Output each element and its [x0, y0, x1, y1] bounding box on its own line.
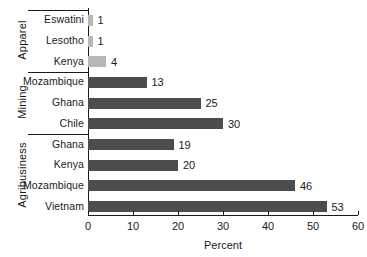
x-tick-mark	[178, 211, 179, 215]
x-tick-label: 40	[248, 220, 288, 232]
bar	[88, 180, 295, 191]
bar-value-label: 53	[332, 201, 344, 213]
bar-value-label: 19	[179, 139, 191, 151]
bar-value-label: 46	[300, 180, 312, 192]
x-tick-label: 20	[158, 220, 198, 232]
series-label: Eswatini	[0, 13, 84, 25]
bar	[88, 160, 178, 171]
bar	[88, 98, 201, 109]
bar-value-label: 25	[206, 97, 218, 109]
bar-value-label: 13	[152, 76, 164, 88]
series-label: Kenya	[0, 158, 84, 170]
x-tick-mark	[133, 211, 134, 215]
series-label: Lesotho	[0, 34, 84, 46]
bar	[88, 36, 93, 47]
series-label: Ghana	[0, 138, 84, 150]
x-tick-label: 60	[338, 220, 367, 232]
x-axis-line	[88, 215, 358, 216]
x-tick-label: 10	[113, 220, 153, 232]
bar-value-label: 1	[98, 14, 104, 26]
bar	[88, 118, 223, 129]
x-axis-title: Percent	[88, 239, 358, 251]
bar	[88, 201, 327, 212]
x-tick-mark	[223, 211, 224, 215]
bar-value-label: 4	[111, 56, 117, 68]
x-tick-label: 0	[68, 220, 108, 232]
group-separator	[28, 10, 88, 11]
x-tick-label: 50	[293, 220, 333, 232]
bar-row: 30	[88, 118, 358, 129]
plot-area: 11413253019204653	[88, 0, 358, 215]
bar	[88, 139, 174, 150]
bar-row: 1	[88, 15, 358, 26]
bar-row: 4	[88, 56, 358, 67]
x-tick-mark	[88, 211, 89, 215]
bar-row: 20	[88, 160, 358, 171]
x-tick-mark	[313, 211, 314, 215]
group-separator	[28, 134, 88, 135]
bar-row: 13	[88, 77, 358, 88]
series-label: Chile	[0, 117, 84, 129]
bar-row: 25	[88, 98, 358, 109]
bar	[88, 15, 93, 26]
bar-row: 1	[88, 36, 358, 47]
bar	[88, 56, 106, 67]
series-label: Mozambique	[0, 179, 84, 191]
group-separator	[28, 72, 88, 73]
bar-value-label: 1	[98, 35, 104, 47]
bar-value-label: 20	[183, 159, 195, 171]
series-label: Ghana	[0, 96, 84, 108]
bar-value-label: 30	[228, 118, 240, 130]
bar-row: 19	[88, 139, 358, 150]
series-label: Kenya	[0, 55, 84, 67]
x-tick-mark	[268, 211, 269, 215]
x-tick-label: 30	[203, 220, 243, 232]
series-label: Mozambique	[0, 75, 84, 87]
bar-chart: ApparelMiningAgribusiness EswatiniLesoth…	[0, 0, 367, 257]
bar-row: 46	[88, 180, 358, 191]
bar	[88, 77, 147, 88]
series-label: Vietnam	[0, 200, 84, 212]
x-tick-mark	[358, 211, 359, 215]
